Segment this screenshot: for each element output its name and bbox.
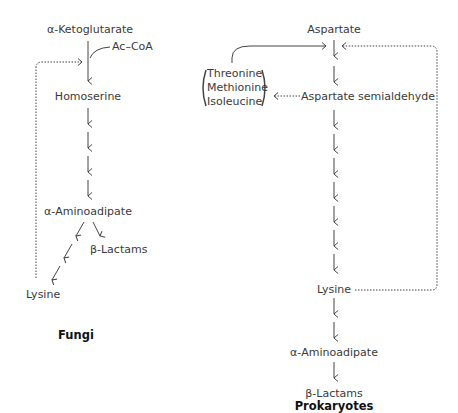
prok-title: Prokaryotes	[295, 400, 374, 413]
prok-lysine: Lysine	[317, 283, 351, 296]
prok-aspartate: Aspartate	[307, 23, 361, 36]
fungi-accoa: Ac–CoA	[112, 40, 153, 53]
accoa-curve	[90, 47, 110, 58]
prok-amino-acids: Threonine Methionine Isoleucine	[207, 67, 262, 109]
fungi-lactams: β-Lactams	[90, 243, 147, 256]
aminoacid-feedback-curve	[232, 46, 326, 63]
prok-isoleucine: Isoleucine	[207, 95, 262, 109]
fungi-ketoglutarate: α-Ketoglutarate	[47, 23, 133, 36]
fungi-aminoadipate: α-Aminoadipate	[44, 205, 132, 218]
fungi-title: Fungi	[58, 329, 94, 342]
left-bracket	[203, 70, 206, 106]
prok-methionine: Methionine	[207, 81, 262, 95]
fungi-lysine: Lysine	[26, 288, 60, 301]
prok-aminoadipate: α-Aminoadipate	[290, 346, 378, 359]
prok-threonine: Threonine	[207, 67, 262, 81]
prok-semialdehyde: Aspartate semialdehyde	[301, 90, 435, 103]
lysine-feedback-dotted	[342, 46, 437, 290]
fungi-homoserine: Homoserine	[55, 90, 121, 103]
